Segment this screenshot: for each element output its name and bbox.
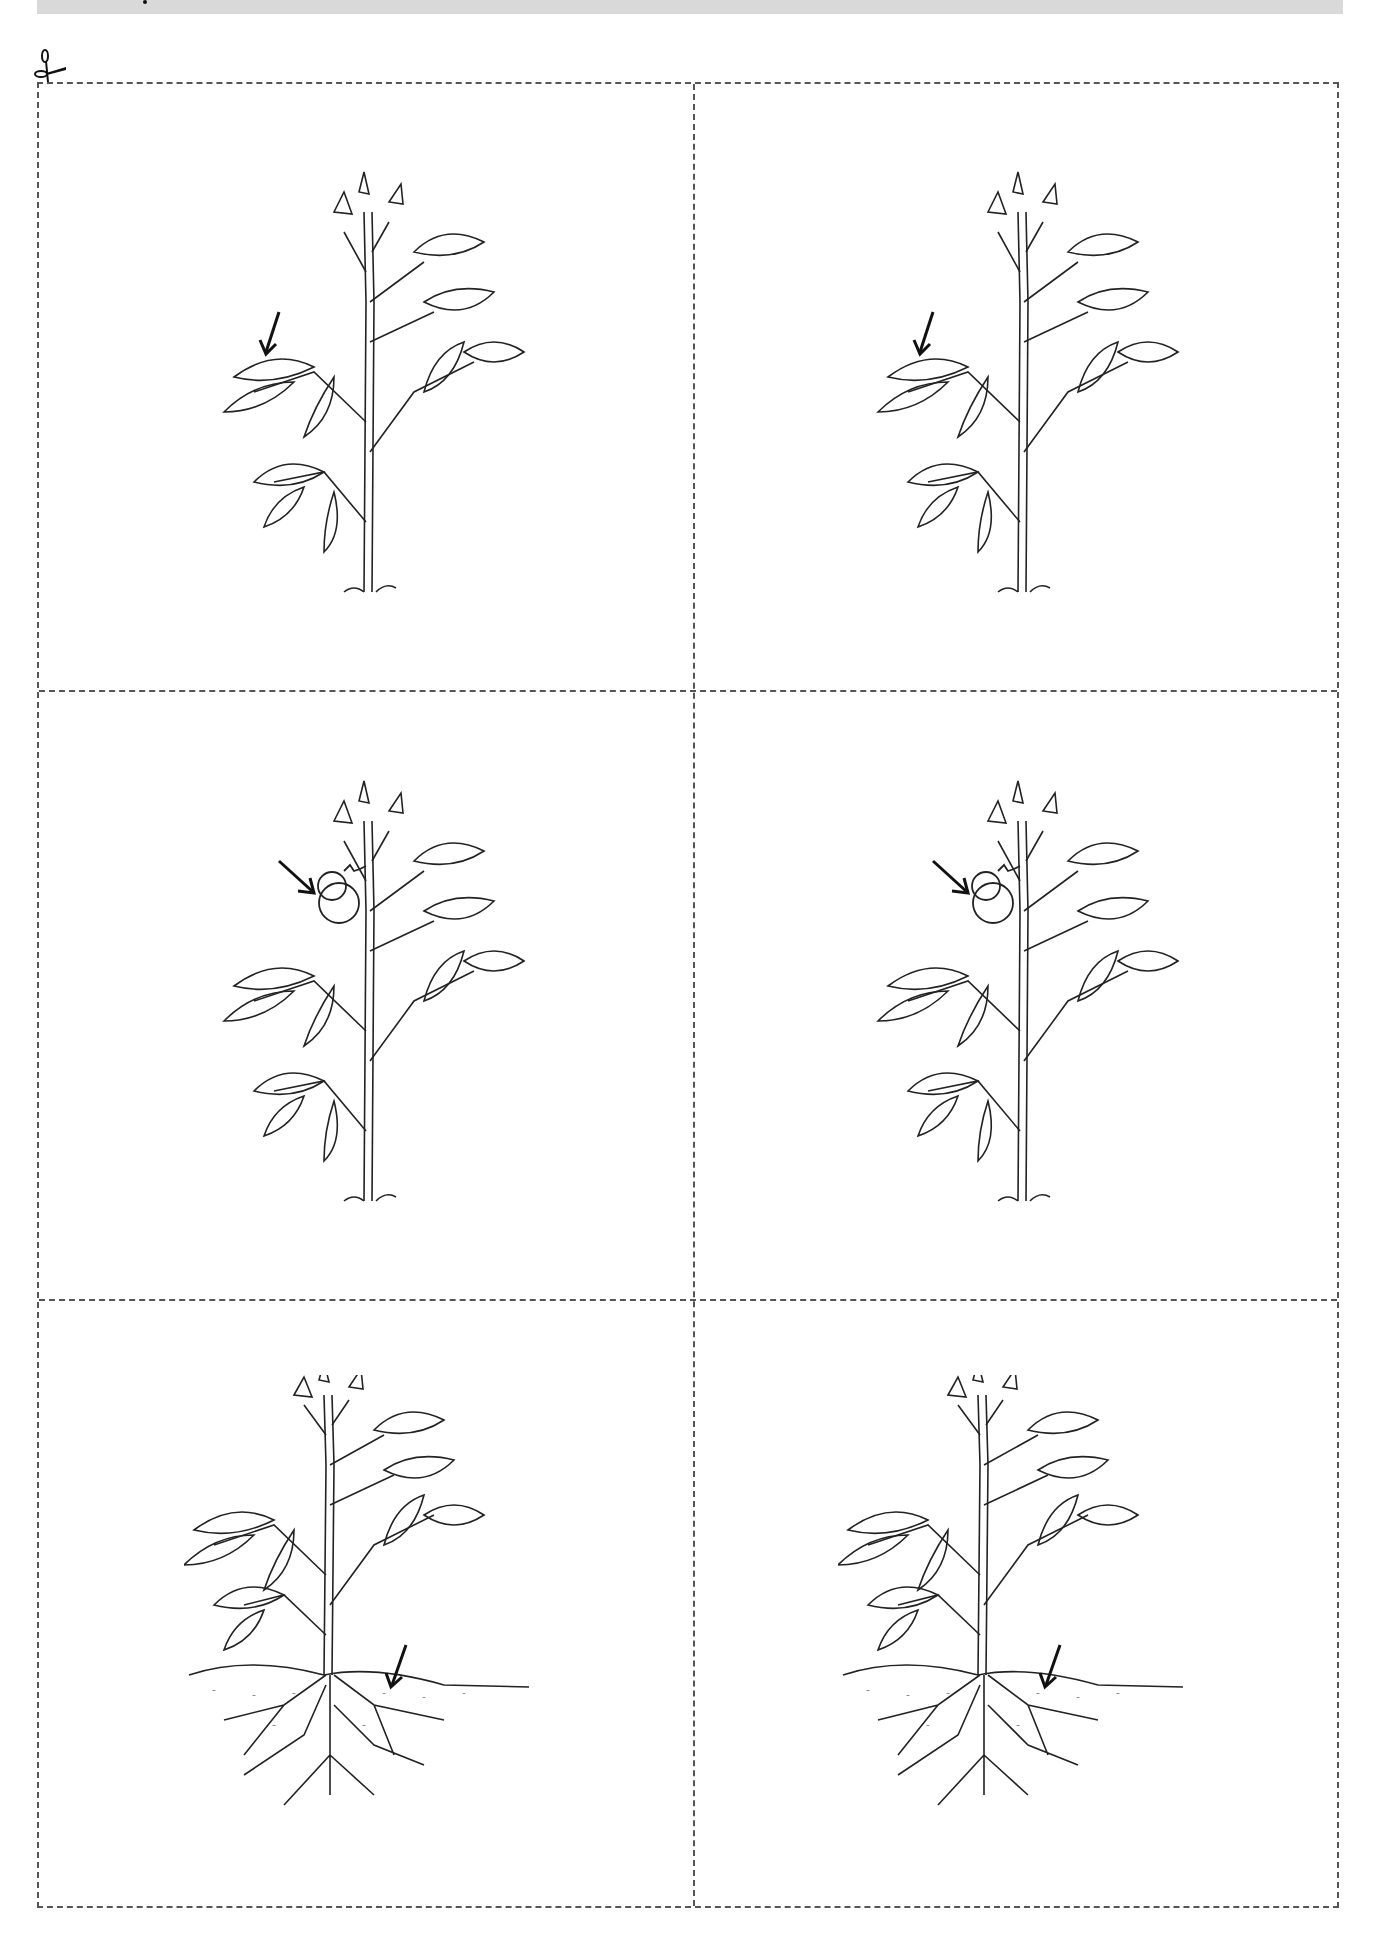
plant-icon [878, 172, 1178, 592]
plant-leaf-illustration [194, 152, 534, 622]
scissors-icon [34, 49, 66, 83]
card-leaf-1[interactable] [39, 84, 689, 690]
plant-leaf-illustration [848, 152, 1188, 622]
plant-icon [184, 1375, 484, 1675]
card-leaf-2[interactable] [693, 84, 1343, 690]
plant-icon [224, 781, 524, 1201]
plant-icon [224, 172, 524, 592]
card-fruit-1[interactable] [39, 692, 689, 1299]
soil-roots-icon [843, 1665, 1183, 1805]
plant-fruit-illustration [194, 761, 534, 1231]
plant-roots-illustration [184, 1375, 544, 1835]
plant-roots-illustration [838, 1375, 1198, 1835]
banner-text-fragment [143, 0, 147, 4]
plant-fruit-illustration [848, 761, 1188, 1231]
soil-roots-icon [189, 1665, 529, 1805]
plant-icon [838, 1375, 1138, 1675]
arrow-icon [279, 861, 312, 891]
plant-icon [878, 781, 1178, 1201]
card-fruit-2[interactable] [693, 692, 1343, 1299]
tomato-icon [318, 865, 366, 923]
header-banner [37, 0, 1343, 14]
arrow-icon [933, 861, 966, 891]
card-grid [37, 82, 1339, 1908]
tomato-icon [972, 865, 1020, 923]
card-roots-1[interactable] [39, 1301, 689, 1908]
card-roots-2[interactable] [693, 1301, 1343, 1908]
